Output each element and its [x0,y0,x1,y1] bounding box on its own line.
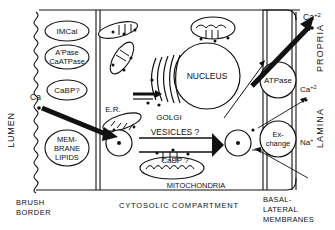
basal-lateral-caption-line3: MEMBRANES [263,215,314,224]
mito-ur-dot-1 [200,38,203,41]
mito-ur-dot-3 [227,37,230,40]
component-cabp: CaBP? [47,80,87,100]
golgi-dot-3 [157,103,160,106]
mito-ul-dot-3 [134,29,137,32]
cell-diagram: IMCal A'Pase CaATPase CaBP? MEM- BRANE L… [0,0,335,230]
golgi-cisterna-3 [164,56,169,102]
nucleus-label: NUCLEUS [187,71,228,81]
component-bl-exchange: Ex- change [260,121,296,157]
basal-lateral-caption-line2: LATERAL [263,205,298,214]
mito-lt-dot-3 [123,69,126,72]
vesicle-right-cargo [236,141,240,145]
basal-lateral-caption-line1: BASAL- [263,195,292,204]
golgi-label: GOLGI [156,113,181,122]
brush-border-components: IMCal A'Pase CaATPase CaBP? MEM- BRANE L… [45,21,89,166]
vesicle-arrowhead [212,133,224,157]
basolateral-components: ATPase Ex- change [260,62,296,157]
cell-bottom-right-corner [263,178,296,190]
bl-atpase-label: ATPase [264,76,292,85]
membrane-lipids-label-line1: MEM- [57,135,77,144]
vesicle-transport: VESICLES ? CaBP ? [102,127,254,165]
mito-ur-outline [191,17,235,39]
atpase-calcium-superscript: +2 [310,84,316,90]
sodium-superscript: + [310,137,313,143]
er-dot-3 [133,126,136,129]
mitochondrion-upper-left [97,18,139,41]
lamina-propria-label-line2: LAMINA [315,108,325,148]
vesicle-left-cargo [117,141,121,145]
membrane-lipids-label-line3: LIPIDS [55,153,79,162]
mito-ur-dot-2 [214,40,217,43]
golgi-dot-1 [150,78,153,81]
er-label: E.R. [105,105,121,114]
cytosol-to-atpase-arrowhead [259,60,265,67]
component-atpase: A'Pase CaATPase [45,45,89,69]
brush-border-microvilli-membrane [34,12,38,193]
bl-exchange-label-line2: change [266,139,291,148]
mitochondria-label: MITOCHONDRIA [167,181,226,190]
bottom-captions: BRUSH BORDER CYTOSOLIC COMPARTMENT BASAL… [16,195,314,224]
bl-exchange-label-line1: Ex- [272,130,284,139]
component-membrane-lipids: MEM- BRANE LIPIDS [45,130,89,166]
cytosolic-caption-line1: CYTOSOLIC [119,201,169,210]
mito-ul-dot-1 [112,31,115,34]
brush-border-caption-line2: BORDER [16,208,51,217]
mito-ul-dot-2 [123,33,126,36]
mitochondrion-left-tilted [106,38,139,77]
cytosolic-caption-line2: COMPARTMENT [172,201,239,210]
lumen-calcium-base: Ca [30,92,41,102]
efflux-calcium-superscript: +2 [314,12,322,18]
atpase-label-line1: A'Pase [55,48,79,57]
nucleus: NUCLEUS [174,43,240,109]
atpase-calcium-label: Ca+2 [300,84,317,94]
mito-lt-dot-1 [112,64,115,67]
mito-b-dot-2 [171,148,174,151]
atpase-calcium-base: Ca [300,85,311,94]
sodium-label: Na+ [300,137,313,147]
figure-canvas: IMCal A'Pase CaATPase CaBP? MEM- BRANE L… [0,0,335,230]
efflux-calcium-base: Ca [303,12,314,22]
mito-lt-outline [106,38,139,77]
golgi-dot-2 [146,101,149,104]
lumen-calcium-dot [37,106,41,110]
mitochondrion-upper-right [191,17,235,43]
cell-top-right-corner [263,10,296,20]
vesicle-cabp-label: CaBP ? [161,156,189,165]
vesicle-right-dot [251,128,254,131]
golgi-cisterna-4 [170,55,175,103]
cabp-label: CaBP? [54,86,80,95]
component-bl-atpase: ATPase [260,62,296,98]
atpase-label-line2: CaATPase [49,57,85,66]
brush-border-caption-line1: BRUSH [16,198,45,207]
lamina-propria-label-line1: PROPRIA [315,24,325,72]
mito-lt-dot-2 [130,57,133,60]
atpase-calcium-dot [304,98,307,101]
efflux-calcium-label: Ca+2 [303,12,321,22]
component-imcal: IMCal [45,21,89,41]
lumen-calcium-label: Ca [30,92,41,102]
imcal-label: IMCal [57,27,78,36]
membrane-lipids-label-line2: BRANE [54,144,80,153]
sodium-base: Na [300,138,311,147]
efflux-calcium-dot [310,26,314,30]
mito-ul-outline [97,18,139,41]
vesicles-label: VESICLES ? [151,127,200,137]
lumen-label: LUMEN [6,112,16,148]
